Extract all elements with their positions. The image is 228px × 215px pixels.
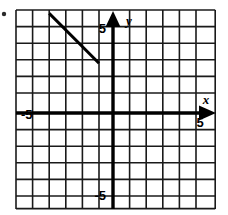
bullet-mark-icon	[2, 12, 6, 16]
x-axis-name-label: x	[202, 92, 210, 107]
coordinate-grid-figure: 5 -5 5 -5 y x	[0, 0, 228, 215]
y-axis-name-label: y	[124, 13, 132, 28]
x-axis-tick-label-positive-five: 5	[196, 115, 203, 130]
x-axis-tick-label-negative-five: -5	[21, 107, 33, 122]
y-axis-tick-label-negative-five: -5	[94, 188, 106, 203]
y-axis-tick-label-positive-five: 5	[99, 21, 106, 36]
coordinate-plane-svg: 5 -5 5 -5 y x	[0, 0, 228, 215]
